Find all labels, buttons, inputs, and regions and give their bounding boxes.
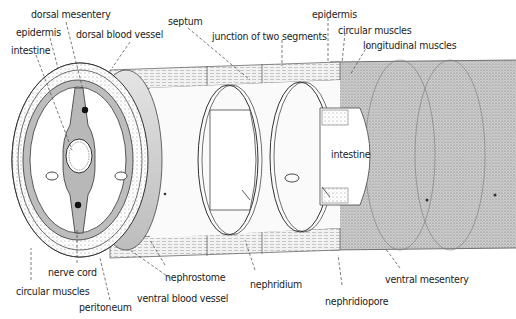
label-nephridiopore: nephridiopore <box>325 295 388 307</box>
label-longitudinal-muscles: longitudinal muscles <box>363 39 456 51</box>
label-intestine-left: intestine <box>11 44 50 56</box>
label-ventral-blood-vessel: ventral blood vessel <box>137 292 228 304</box>
label-circular-muscles-bottom: circular muscles <box>16 285 89 297</box>
label-nephrostome: nephrostome <box>165 271 225 283</box>
label-nerve-cord: nerve cord <box>48 266 97 278</box>
label-septum: septum <box>168 15 202 27</box>
label-dorsal-blood-vessel: dorsal blood vessel <box>76 28 163 40</box>
label-ventral-mesentery: ventral mesentery <box>385 273 469 285</box>
earthworm-diagram: dorsal mesentery epidermis intestine dor… <box>0 0 516 319</box>
label-nephridium: nephridium <box>250 278 302 290</box>
label-epidermis-right: epidermis <box>312 8 357 20</box>
label-junction-of-two-segments: junction of two segments <box>212 30 327 42</box>
label-peritoneum: peritoneum <box>79 301 132 313</box>
label-dorsal-mesentery: dorsal mesentery <box>31 8 111 20</box>
label-circular-muscles-top: circular muscles <box>338 24 411 36</box>
label-epidermis-left: epidermis <box>16 26 61 38</box>
label-intestine-center: intestine <box>331 148 370 160</box>
